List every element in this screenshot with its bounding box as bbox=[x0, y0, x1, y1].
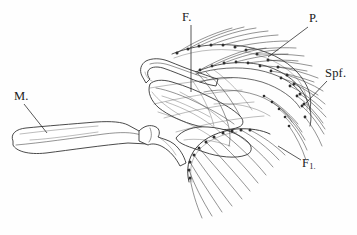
anatomical-illustration bbox=[0, 0, 357, 235]
first-branchial-filament-label: F1. bbox=[302, 156, 316, 171]
first-arch-label: F. bbox=[182, 10, 191, 25]
mandible-plate-label: M. bbox=[14, 89, 29, 104]
main-body-plate bbox=[149, 80, 243, 129]
articulation-condyle-group bbox=[139, 126, 186, 166]
leader-f1 bbox=[278, 146, 301, 160]
spine-field-label: Spf. bbox=[325, 66, 346, 81]
f1-subscript: 1. bbox=[309, 161, 316, 171]
leader-p bbox=[268, 27, 308, 57]
palatine-label: P. bbox=[309, 11, 318, 26]
figure-root: M. F. P. Spf. F1. bbox=[0, 0, 357, 235]
lower-central-plate bbox=[176, 127, 251, 157]
mandible-plate-group bbox=[12, 122, 152, 154]
